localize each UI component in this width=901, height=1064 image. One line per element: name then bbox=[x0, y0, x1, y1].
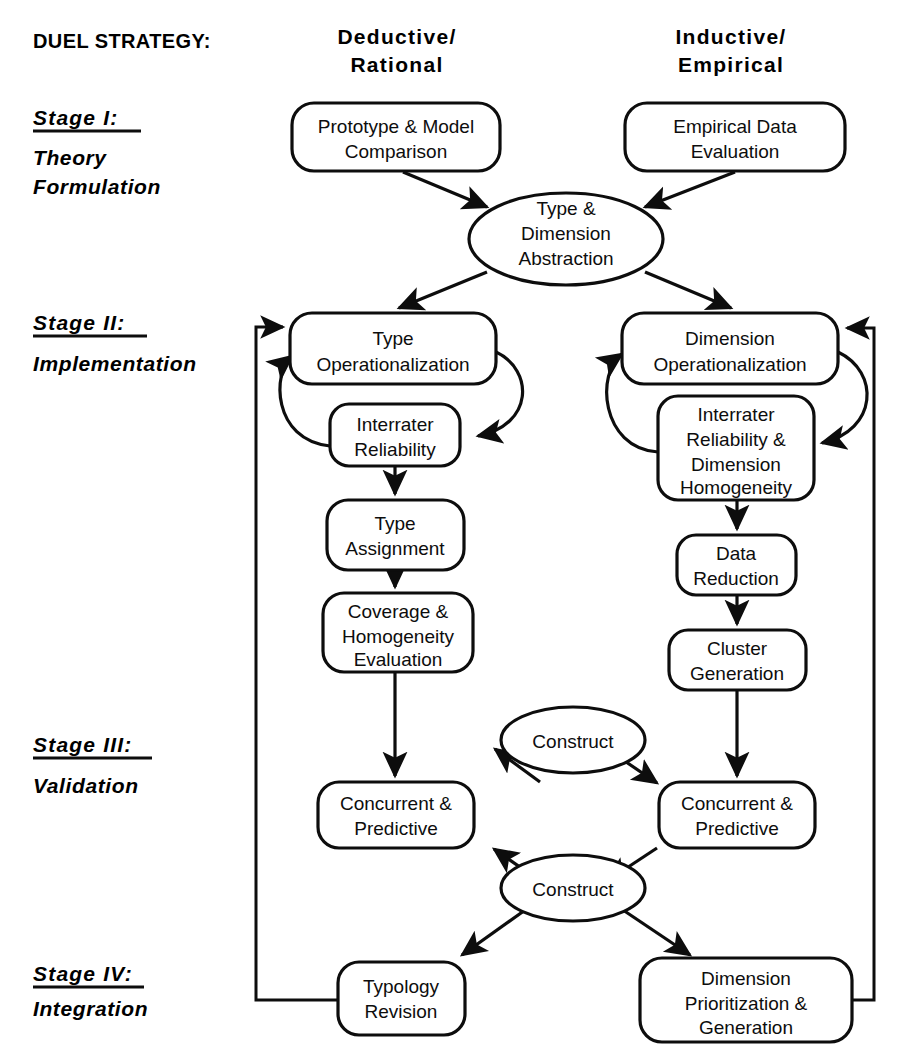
stage-1-sub-line2: Formulation bbox=[33, 175, 161, 198]
stage-2-name: Stage II: bbox=[33, 311, 125, 334]
stage-3-name: Stage III: bbox=[33, 733, 133, 756]
edge-abstraction-to-type-oper bbox=[399, 272, 487, 308]
edge-abstraction-to-dim-oper bbox=[645, 272, 731, 308]
node-type-assignment[interactable]: Type Assignment bbox=[327, 500, 464, 570]
column-header-inductive-line2: Empirical bbox=[678, 53, 784, 76]
node-dim-oper-line-0: Dimension bbox=[685, 328, 775, 349]
node-conc-pred-l-line-0: Concurrent & bbox=[340, 793, 452, 814]
node-dimension-prioritization-generation[interactable]: Dimension Prioritization & Generation bbox=[640, 958, 852, 1042]
stage-3-sub-line1: Validation bbox=[33, 774, 139, 797]
node-coverage-line-2: Evaluation bbox=[354, 649, 443, 670]
node-dim-prior-line-2: Generation bbox=[699, 1017, 793, 1038]
node-data-reduction[interactable]: Data Reduction bbox=[677, 535, 796, 595]
stage-1-sub-line1: Theory bbox=[33, 146, 107, 169]
node-interrater-r-line-1: Reliability & bbox=[686, 429, 786, 450]
edge-construct-bottom-to-typology bbox=[462, 908, 528, 955]
node-type-assign-line-0: Type bbox=[374, 513, 415, 534]
node-empirical-line-0: Empirical Data bbox=[673, 116, 797, 137]
column-header-inductive-line1: Inductive/ bbox=[675, 25, 786, 48]
node-typology-revision[interactable]: Typology Revision bbox=[338, 962, 465, 1035]
edge-construct-bottom-to-dimension-prioritization bbox=[620, 908, 690, 955]
node-dim-prior-line-1: Prioritization & bbox=[685, 993, 808, 1014]
node-type-oper-line-0: Type bbox=[372, 328, 413, 349]
node-concurrent-predictive-left[interactable]: Concurrent & Predictive bbox=[318, 782, 474, 848]
node-dim-oper-line-1: Operationalization bbox=[653, 354, 806, 375]
node-dimension-operationalization[interactable]: Dimension Operationalization bbox=[622, 313, 838, 384]
node-empirical-line-1: Evaluation bbox=[691, 141, 780, 162]
stage-1-name: Stage I: bbox=[33, 106, 118, 129]
node-cluster-line-1: Generation bbox=[690, 663, 784, 684]
node-interrater-r-line-3: Homogeneity bbox=[680, 477, 792, 498]
node-dim-prior-line-0: Dimension bbox=[701, 968, 791, 989]
node-interrater-l-line-1: Reliability bbox=[354, 439, 436, 460]
node-concurrent-predictive-right[interactable]: Concurrent & Predictive bbox=[659, 782, 815, 848]
column-header-deductive-line2: Rational bbox=[350, 53, 443, 76]
node-construct-bottom[interactable]: Construct bbox=[501, 855, 645, 921]
node-data-reduction-line-1: Reduction bbox=[693, 568, 779, 589]
node-conc-pred-r-line-0: Concurrent & bbox=[681, 793, 793, 814]
node-interrater-reliability-left[interactable]: Interrater Reliability bbox=[330, 404, 460, 466]
duel-strategy-flowchart: DUEL STRATEGY: Deductive/ Rational Induc… bbox=[0, 0, 901, 1064]
node-abstraction-line-0: Type & bbox=[536, 198, 595, 219]
node-type-operationalization[interactable]: Type Operationalization bbox=[290, 313, 496, 384]
stage-4-name: Stage IV: bbox=[33, 962, 133, 985]
node-typology-line-0: Typology bbox=[363, 976, 440, 997]
node-abstraction-line-2: Abstraction bbox=[518, 248, 613, 269]
node-coverage-line-1: Homogeneity bbox=[342, 626, 454, 647]
stage-4-sub-line1: Integration bbox=[33, 997, 148, 1020]
node-interrater-r-line-2: Dimension bbox=[691, 454, 781, 475]
edge-empirical-to-abstraction bbox=[645, 172, 735, 207]
node-coverage-line-0: Coverage & bbox=[348, 601, 449, 622]
node-construct-bottom-label: Construct bbox=[532, 879, 614, 900]
node-coverage-homogeneity-evaluation[interactable]: Coverage & Homogeneity Evaluation bbox=[323, 593, 473, 672]
node-interrater-r-line-0: Interrater bbox=[697, 404, 775, 425]
node-cluster-generation[interactable]: Cluster Generation bbox=[669, 630, 806, 690]
node-construct-top-label: Construct bbox=[532, 731, 614, 752]
node-abstraction-line-1: Dimension bbox=[521, 223, 611, 244]
node-prototype-model-comparison[interactable]: Prototype & Model Comparison bbox=[292, 103, 500, 171]
stage-2-sub-line1: Implementation bbox=[33, 352, 197, 375]
node-type-dimension-abstraction[interactable]: Type & Dimension Abstraction bbox=[469, 193, 663, 285]
node-prototype-line-0: Prototype & Model bbox=[318, 116, 474, 137]
node-typology-line-1: Revision bbox=[365, 1001, 438, 1022]
node-type-oper-line-1: Operationalization bbox=[316, 354, 469, 375]
diagram-canvas: DUEL STRATEGY: Deductive/ Rational Induc… bbox=[0, 0, 901, 1064]
node-construct-top[interactable]: Construct bbox=[501, 707, 645, 773]
duel-strategy-label: DUEL STRATEGY: bbox=[33, 30, 211, 52]
node-conc-pred-r-line-1: Predictive bbox=[695, 818, 778, 839]
node-interrater-l-line-0: Interrater bbox=[356, 414, 434, 435]
node-empirical-data-evaluation[interactable]: Empirical Data Evaluation bbox=[625, 103, 845, 171]
node-interrater-reliability-dimension-homogeneity[interactable]: Interrater Reliability & Dimension Homog… bbox=[658, 396, 814, 500]
node-data-reduction-line-0: Data bbox=[716, 543, 757, 564]
node-type-assign-line-1: Assignment bbox=[345, 538, 445, 559]
node-prototype-line-1: Comparison bbox=[345, 141, 447, 162]
edge-prototype-to-abstraction bbox=[403, 172, 487, 207]
node-conc-pred-l-line-1: Predictive bbox=[354, 818, 437, 839]
node-cluster-line-0: Cluster bbox=[707, 638, 768, 659]
column-header-deductive-line1: Deductive/ bbox=[337, 25, 456, 48]
